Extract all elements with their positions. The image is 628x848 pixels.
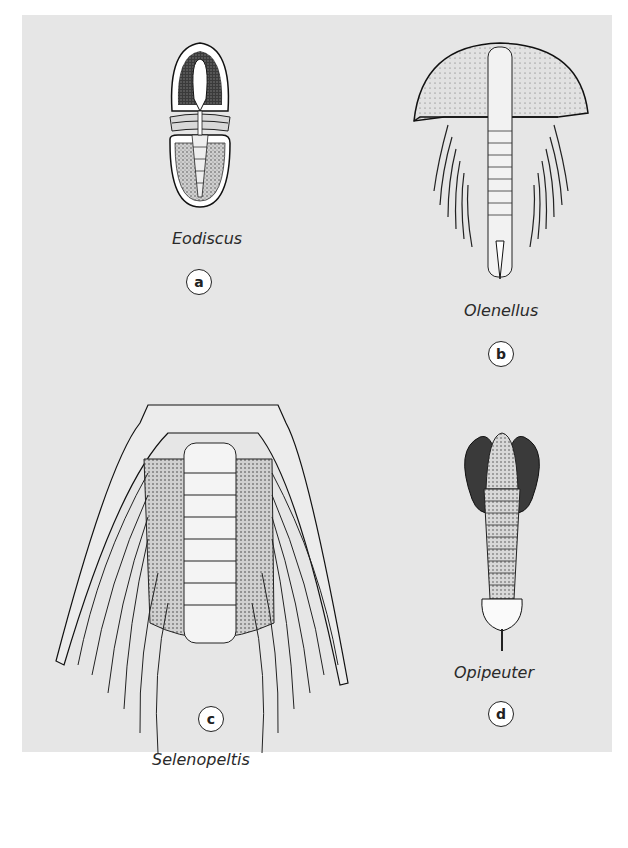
badge-c: c — [198, 706, 224, 732]
olenellus-illustration — [408, 41, 594, 281]
olenellus-label: Olenellus — [464, 301, 538, 320]
selenopeltis-label: Selenopeltis — [152, 750, 250, 769]
badge-a: a — [186, 269, 212, 295]
opipeuter-label: Opipeuter — [454, 663, 534, 682]
badge-d: d — [488, 701, 514, 727]
badge-b: b — [488, 341, 514, 367]
eodiscus-label: Eodiscus — [172, 229, 242, 248]
figure-panel: Eodiscus a Olenellus b — [22, 15, 612, 752]
eodiscus-illustration — [162, 39, 238, 211]
opipeuter-illustration — [452, 429, 552, 653]
